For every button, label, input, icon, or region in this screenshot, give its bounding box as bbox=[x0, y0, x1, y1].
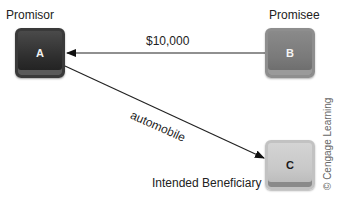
promisor-label: Promisor bbox=[6, 8, 54, 22]
intended-beneficiary-label: Intended Beneficiary bbox=[152, 176, 261, 190]
copyright-credit: © Cengage Learning bbox=[322, 98, 333, 190]
edge-label-10000: $10,000 bbox=[146, 34, 189, 48]
node-b-promisee: B bbox=[265, 28, 315, 78]
node-a-promisor: A bbox=[15, 28, 65, 78]
node-b-letter: B bbox=[286, 47, 294, 59]
node-a-letter: A bbox=[36, 47, 44, 59]
arrow-a-to-c bbox=[65, 66, 264, 158]
node-c-intended-beneficiary: C bbox=[265, 140, 315, 190]
promisee-label: Promisee bbox=[269, 8, 320, 22]
node-c-letter: C bbox=[286, 159, 294, 171]
